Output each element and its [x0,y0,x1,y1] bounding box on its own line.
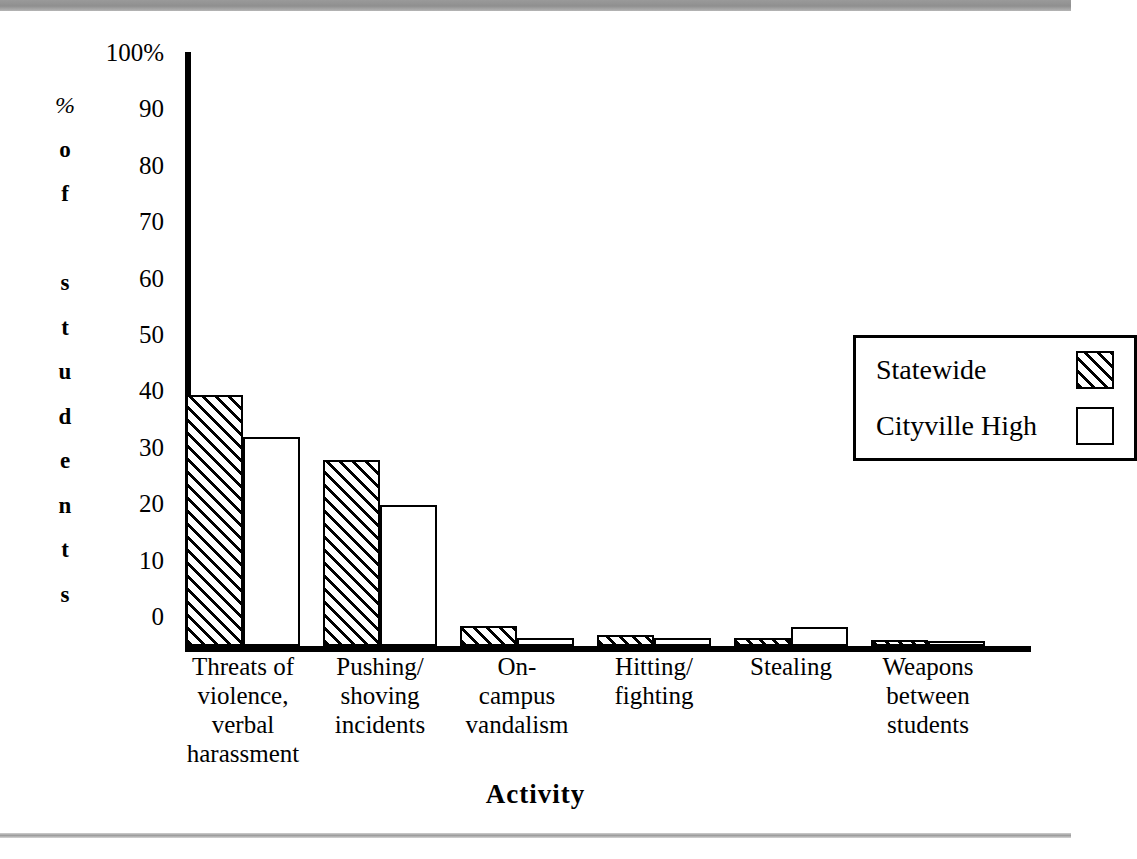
legend-label-statewide: Statewide [856,355,1076,385]
y-axis-title-char: u [48,350,82,395]
bar-group [734,46,848,646]
y-axis-tick-label: 80 [139,152,164,177]
x-axis-category-label: Weapons between students [853,652,1003,739]
y-axis-tick-label: 20 [139,491,164,516]
x-axis-category-label: Pushing/ shoving incidents [305,652,455,739]
bar-statewide [871,640,928,646]
x-axis-category-label: Hitting/ fighting [579,652,729,710]
bar-statewide [734,638,791,646]
y-axis-title-char: d [48,395,82,440]
y-axis-title-char: t [48,306,82,351]
bar-cityville-high [791,627,848,646]
legend-swatch-cityville-high-icon [1076,407,1114,445]
x-axis-category-label: Threats of violence, verbal harassment [168,652,318,768]
chart-legend: Statewide Cityville High [853,335,1137,461]
y-axis-tick-label: 0 [152,604,165,629]
bar-statewide [597,635,654,646]
legend-item-cityville-high: Cityville High [856,398,1134,454]
x-axis-category-label: On- campus vandalism [442,652,592,739]
x-axis-title: Activity [0,779,1071,810]
y-axis-tick-labels: 100%9080706050403020100 [84,11,172,833]
bar-cityville-high [517,638,574,646]
bar-cityville-high [380,505,437,646]
x-axis-category-labels: Threats of violence, verbal harassmentPu… [175,652,1031,782]
bar-group [460,46,574,646]
y-axis-title: %of students [48,83,82,617]
y-axis-title-char: t [48,528,82,573]
scan-bottom-rule [0,833,1071,838]
legend-item-statewide: Statewide [856,342,1134,398]
y-axis-tick-label: 50 [139,322,164,347]
y-axis-title-char: s [48,573,82,618]
bar-cityville-high [243,437,300,646]
y-axis-title-char: % [48,83,82,128]
legend-label-cityville-high: Cityville High [856,411,1076,441]
y-axis-title-char: n [48,484,82,529]
legend-swatch-statewide-icon [1076,351,1114,389]
bar-statewide [323,460,380,646]
y-axis-tick-label: 70 [139,209,164,234]
y-axis-tick-label: 10 [139,547,164,572]
y-axis-tick-label: 90 [139,96,164,121]
bar-statewide [460,626,517,646]
y-axis-tick-label: 30 [139,434,164,459]
y-axis-tick-label: 60 [139,265,164,290]
y-axis-tick-label: 40 [139,378,164,403]
bar-cityville-high [654,638,711,646]
x-axis-category-label: Stealing [716,652,866,681]
bar-group [323,46,437,646]
y-axis-title-char [48,217,82,262]
y-axis-title-char: e [48,439,82,484]
y-axis-tick-label: 100% [106,40,164,65]
bar-chart-figure: %of students 100%9080706050403020100 Sta… [0,11,1071,833]
bar-cityville-high [928,641,985,646]
y-axis-title-char: o [48,128,82,173]
y-axis-title-char: f [48,172,82,217]
bar-group [186,46,300,646]
plot-area: Statewide Cityville High [175,41,1031,641]
bar-group [597,46,711,646]
bar-statewide [186,395,243,646]
y-axis-title-char: s [48,261,82,306]
scan-top-band [0,0,1071,11]
